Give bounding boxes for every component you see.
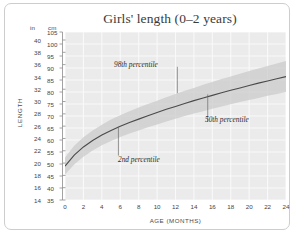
annotation-50th-percentile: 50th percentile — [205, 115, 249, 124]
annotation-98th-percentile: 98th percentile — [114, 60, 158, 69]
chart-frame: Girls' length (0–2 years) in cm LENGTH A… — [4, 3, 290, 230]
annotation-2nd-percentile: 2nd percentile — [118, 155, 160, 164]
axis-spines-and-ticks — [5, 4, 295, 234]
